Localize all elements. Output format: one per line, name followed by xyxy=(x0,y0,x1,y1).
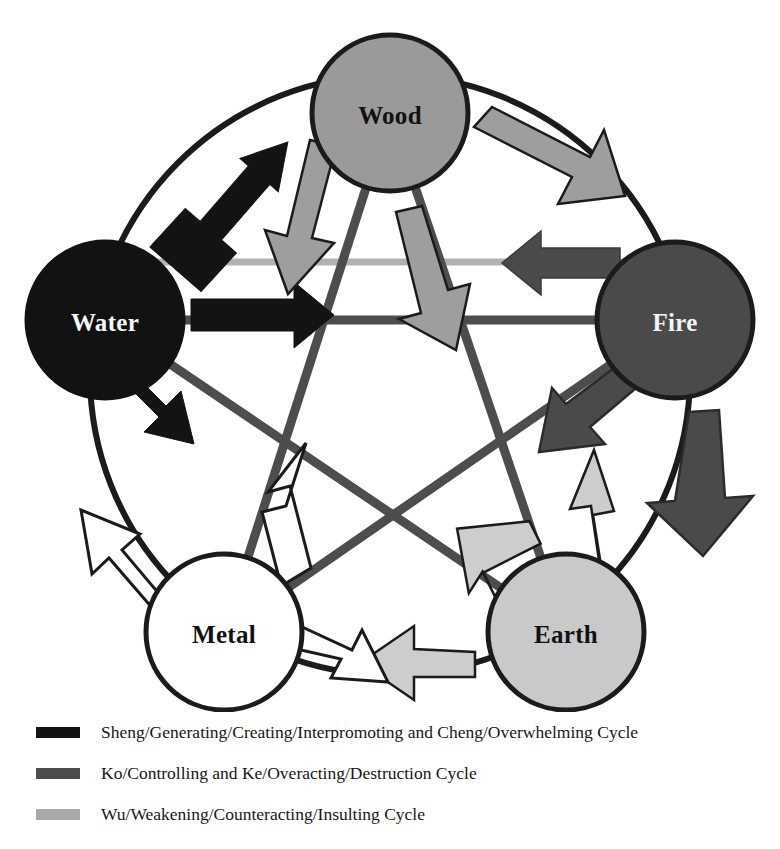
legend-label-wu: Wu/Weakening/Counteracting/Insulting Cyc… xyxy=(101,806,425,824)
node-water-label: Water xyxy=(71,309,139,336)
node-fire-label: Fire xyxy=(652,309,697,336)
arrow-metal-to-earth-wu xyxy=(292,627,388,682)
legend-label-sheng: Sheng/Generating/Creating/Interpromoting… xyxy=(101,724,638,742)
arrow-fire-to-metal-ko-horizontal xyxy=(502,231,620,295)
legend-item-sheng: Sheng/Generating/Creating/Interpromoting… xyxy=(0,712,780,753)
legend-swatch-ko xyxy=(36,768,80,779)
node-water[interactable]: Water xyxy=(27,242,183,398)
legend: Sheng/Generating/Creating/Interpromoting… xyxy=(0,712,780,849)
legend-swatch-wu xyxy=(36,809,80,820)
node-earth[interactable]: Earth xyxy=(488,554,644,710)
legend-label-ko: Ko/Controlling and Ke/Overacting/Destruc… xyxy=(101,765,477,783)
five-elements-diagram-page: Wood Fire Earth Metal Water Sheng xyxy=(0,0,780,849)
node-wood-label: Wood xyxy=(358,102,422,129)
diagram-canvas: Wood Fire Earth Metal Water xyxy=(0,0,780,712)
arrow-fire-to-earth-ko xyxy=(647,410,753,556)
node-fire[interactable]: Fire xyxy=(597,242,753,398)
arrow-water-to-fire-cheng xyxy=(191,282,334,348)
legend-item-wu: Wu/Weakening/Counteracting/Insulting Cyc… xyxy=(0,794,780,835)
node-metal-label: Metal xyxy=(192,621,256,648)
node-earth-label: Earth xyxy=(534,621,598,648)
node-metal[interactable]: Metal xyxy=(146,554,302,710)
legend-item-ko: Ko/Controlling and Ke/Overacting/Destruc… xyxy=(0,753,780,794)
cycle-diagram-svg: Wood Fire Earth Metal Water xyxy=(0,0,780,712)
node-wood[interactable]: Wood xyxy=(312,35,468,191)
legend-swatch-sheng xyxy=(36,727,80,738)
